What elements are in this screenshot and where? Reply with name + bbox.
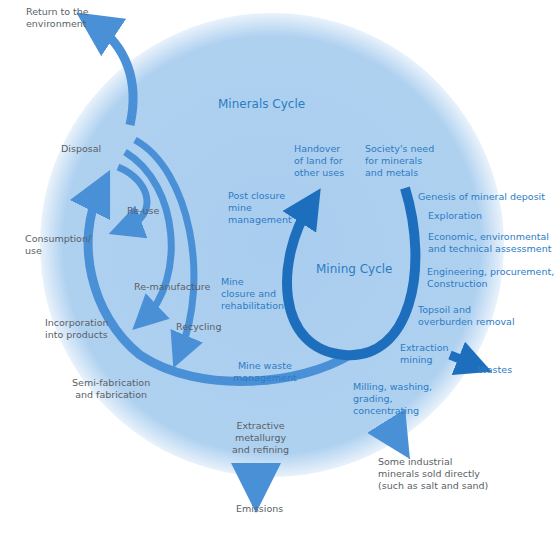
label-post-closure: Post closure mine management bbox=[228, 190, 292, 226]
label-topsoil: Topsoil and overburden removal bbox=[418, 304, 515, 328]
label-wastes: Wastes bbox=[478, 364, 512, 376]
label-milling: Milling, washing, grading, concentrating bbox=[353, 381, 432, 417]
label-emissions: Emissions bbox=[236, 503, 283, 515]
label-handover: Handover of land for other uses bbox=[294, 143, 344, 179]
label-genesis: Genesis of mineral deposit bbox=[418, 191, 545, 203]
label-industrial-minerals: Some industrial minerals sold directly (… bbox=[378, 456, 488, 492]
label-societys-need: Society's need for minerals and metals bbox=[365, 143, 434, 179]
label-assessment: Economic, environmental and technical as… bbox=[428, 231, 551, 255]
minerals-cycle-title: Minerals Cycle bbox=[218, 98, 305, 110]
label-extraction: Extraction mining bbox=[400, 342, 449, 366]
label-re-manufacture: Re-manufacture bbox=[134, 281, 210, 293]
label-extractive-metallurgy: Extractive metallurgy and refining bbox=[232, 420, 289, 456]
label-re-use: Re-use bbox=[127, 205, 159, 217]
label-mine-waste: Mine waste management bbox=[233, 360, 297, 384]
label-engineering: Engineering, procurement, Construction bbox=[427, 266, 554, 290]
mining-cycle-title: Mining Cycle bbox=[316, 263, 392, 275]
label-disposal: Disposal bbox=[61, 143, 101, 155]
label-exploration: Exploration bbox=[428, 210, 482, 222]
label-mine-closure: Mine closure and rehabilitation bbox=[221, 276, 284, 312]
minerals-cycle-diagram: Minerals Cycle Mining Cycle Return to th… bbox=[0, 0, 555, 539]
label-recycling: Recycling bbox=[176, 321, 221, 333]
label-consumption-use: Consumption/ use bbox=[25, 233, 91, 257]
label-incorporation: Incorporation into products bbox=[45, 317, 109, 341]
label-return-to-environment: Return to the environment bbox=[26, 6, 89, 30]
label-semi-fabrication: Semi-fabrication and fabrication bbox=[72, 377, 150, 401]
